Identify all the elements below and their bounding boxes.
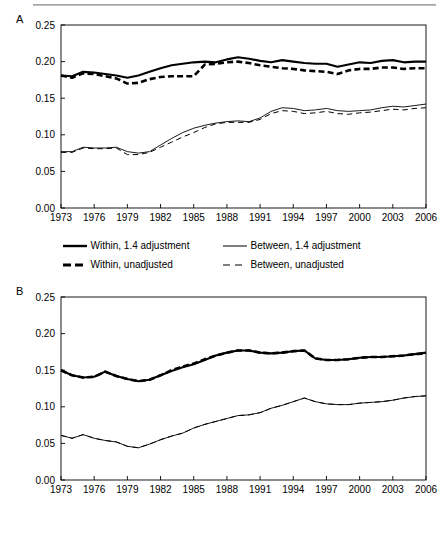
x-axis-tick-label: 2000 <box>349 212 372 223</box>
y-axis-tick-label: 0.25 <box>36 292 56 303</box>
x-axis-tick-label: 1985 <box>183 484 206 495</box>
x-axis-tick-label: 1988 <box>216 212 239 223</box>
x-axis-tick-label: 1976 <box>83 484 106 495</box>
chart-series-line <box>61 396 426 448</box>
x-axis-tick-label: 1997 <box>315 484 338 495</box>
y-axis-tick-label: 0.10 <box>36 129 56 140</box>
legend-item-between-14-adjustment: Between, 1.4 adjustment <box>222 240 387 251</box>
legend-swatch-dashed-thick <box>62 260 88 270</box>
x-axis-tick-label: 2003 <box>382 484 405 495</box>
chart-series-line <box>61 350 426 381</box>
chart-series-line <box>61 104 426 153</box>
chart-plot-a: 0.000.050.100.150.200.251973197619791982… <box>0 14 448 229</box>
x-axis-tick-label: 2003 <box>382 212 405 223</box>
legend-label-within-unadjusted: Within, unadjusted <box>91 259 173 270</box>
x-axis-tick-label: 1994 <box>282 212 305 223</box>
chart-series-line <box>61 62 426 84</box>
y-axis-tick-label: 0.15 <box>36 93 56 104</box>
x-axis-tick-label: 1982 <box>149 212 172 223</box>
legend-item-within-unadjusted: Within, unadjusted <box>62 259 222 270</box>
chart-series-line <box>61 396 426 448</box>
legend-swatch-dashed-thin <box>222 260 248 270</box>
legend-label-between-unadjusted: Between, unadjusted <box>251 259 344 270</box>
y-axis-tick-label: 0.20 <box>36 328 56 339</box>
y-axis-tick-label: 0.05 <box>36 438 56 449</box>
y-axis-tick-label: 0.20 <box>36 56 56 67</box>
x-axis-tick-label: 1988 <box>216 484 239 495</box>
x-axis-tick-label: 1979 <box>116 484 139 495</box>
y-axis-tick-label: 0.05 <box>36 166 56 177</box>
chart-legend-a: Within, 1.4 adjustment Between, 1.4 adju… <box>0 236 448 274</box>
legend-row-1: Within, 1.4 adjustment Between, 1.4 adju… <box>0 236 448 255</box>
legend-item-between-unadjusted: Between, unadjusted <box>222 259 387 270</box>
x-axis-tick-label: 1997 <box>315 212 338 223</box>
x-axis-tick-label: 1976 <box>83 212 106 223</box>
y-axis-tick-label: 0.15 <box>36 365 56 376</box>
x-axis-tick-label: 1991 <box>249 212 272 223</box>
chart-series-line <box>61 57 426 77</box>
chart-panel-b: B 0.000.050.100.150.200.2519731976197919… <box>0 286 448 544</box>
x-axis-tick-label: 1985 <box>183 212 206 223</box>
legend-swatch-solid-thick <box>62 241 88 251</box>
legend-row-2: Within, unadjusted Between, unadjusted <box>0 255 448 274</box>
y-axis-tick-label: 0.10 <box>36 401 56 412</box>
x-axis-tick-label: 1991 <box>249 484 272 495</box>
legend-item-within-14-adjustment: Within, 1.4 adjustment <box>62 240 222 251</box>
legend-label-within-14-adjustment: Within, 1.4 adjustment <box>91 240 190 251</box>
y-axis-tick-label: 0.25 <box>36 20 56 31</box>
page-divider-rule <box>33 4 436 6</box>
legend-label-between-14-adjustment: Between, 1.4 adjustment <box>251 240 361 251</box>
x-axis-tick-label: 2006 <box>415 484 438 495</box>
x-axis-tick-label: 2006 <box>415 212 438 223</box>
x-axis-tick-label: 1973 <box>50 212 73 223</box>
chart-panel-a: A 0.000.050.100.150.200.2519731976197919… <box>0 14 448 272</box>
x-axis-tick-label: 1979 <box>116 212 139 223</box>
legend-swatch-solid-thin <box>222 241 248 251</box>
x-axis-tick-label: 2000 <box>349 484 372 495</box>
x-axis-tick-label: 1973 <box>50 484 73 495</box>
figure-page: A 0.000.050.100.150.200.2519731976197919… <box>0 0 448 544</box>
chart-plot-b: 0.000.050.100.150.200.251973197619791982… <box>0 286 448 501</box>
x-axis-tick-label: 1982 <box>149 484 172 495</box>
x-axis-tick-label: 1994 <box>282 484 305 495</box>
